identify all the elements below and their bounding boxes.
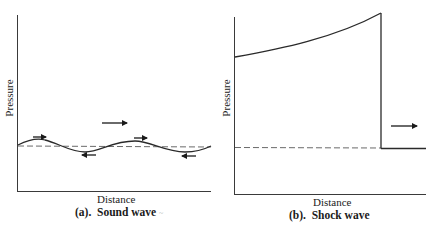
panel-a-caption-mark: ~ — [159, 209, 163, 218]
panel-a-y-axis-label: Pressure — [3, 75, 15, 121]
panel-a-sound-wave-curve — [18, 139, 211, 152]
panel-b-caption: (b). Shock wave — [289, 209, 370, 221]
panel-b-shock-profile-curve — [235, 13, 381, 57]
panel-a-caption-text: (a). Sound wave — [75, 206, 156, 218]
panel-b-y-axis-label: Pressure — [220, 75, 232, 121]
panel-a-sound-wave — [17, 15, 211, 192]
panel-a-caption: (a). Sound wave ~ — [75, 206, 163, 218]
diagram-canvas — [0, 0, 431, 229]
panel-a-ambient-dashed-line — [18, 146, 211, 147]
panel-b-x-axis-label: Distance — [313, 196, 351, 208]
panel-a-x-axis-label: Distance — [97, 193, 135, 205]
panel-b-ambient-dashed-line — [235, 148, 381, 149]
panel-b-shock-wave — [234, 13, 426, 195]
